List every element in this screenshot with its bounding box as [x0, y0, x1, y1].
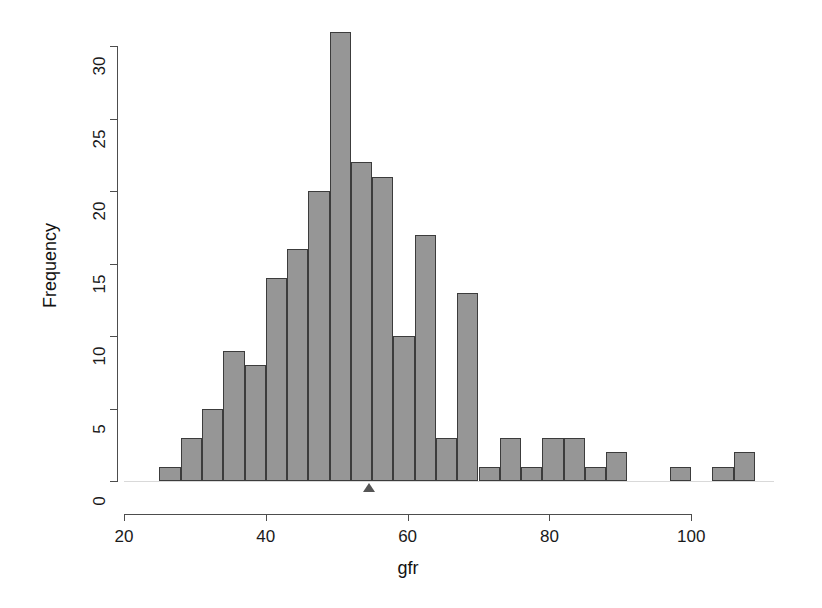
x-axis-label: gfr — [358, 558, 458, 579]
histogram-bar — [372, 177, 393, 482]
y-tick — [110, 409, 117, 410]
y-axis-line — [117, 46, 118, 482]
histogram-bar — [479, 467, 500, 482]
histogram-bar — [712, 467, 733, 482]
y-tick-label: 15 — [90, 264, 110, 304]
y-tick-label: 10 — [90, 336, 110, 376]
y-tick — [110, 191, 117, 192]
histogram-bar — [266, 278, 287, 481]
histogram-bar — [457, 293, 478, 482]
histogram-bar — [287, 249, 308, 481]
histogram-bar — [202, 409, 223, 482]
y-axis-label: Frequency — [40, 206, 61, 326]
histogram-bar — [500, 438, 521, 482]
y-tick-label: 30 — [90, 46, 110, 86]
x-tick-label: 40 — [236, 527, 296, 547]
histogram-bar — [351, 162, 372, 481]
histogram-bar — [734, 452, 755, 481]
y-tick-label: 0 — [90, 481, 110, 521]
plot-area: 051015202530 20406080100 Frequency gfr — [0, 0, 822, 608]
histogram-bar — [181, 438, 202, 482]
histogram-bar — [415, 235, 436, 482]
histogram-bar — [670, 467, 691, 482]
x-tick — [266, 514, 267, 521]
histogram-bar — [159, 467, 180, 482]
histogram-bar — [542, 438, 563, 482]
mean-marker-triangle — [363, 483, 375, 492]
y-tick-label: 20 — [90, 191, 110, 231]
y-tick — [110, 264, 117, 265]
histogram-bar — [245, 365, 266, 481]
histogram-bar — [393, 336, 414, 481]
y-tick — [110, 119, 117, 120]
y-tick-label: 5 — [90, 409, 110, 449]
histogram-bar — [308, 191, 329, 481]
y-tick — [110, 336, 117, 337]
x-tick-label: 20 — [94, 527, 154, 547]
x-tick — [408, 514, 409, 521]
x-tick-label: 60 — [378, 527, 438, 547]
x-tick-label: 100 — [661, 527, 721, 547]
histogram-bar — [330, 32, 351, 482]
histogram-figure: 051015202530 20406080100 Frequency gfr — [0, 0, 822, 608]
x-tick — [124, 514, 125, 521]
histogram-bar — [521, 467, 542, 482]
histogram-bar — [585, 467, 606, 482]
y-tick — [110, 46, 117, 47]
x-tick — [549, 514, 550, 521]
histogram-bar — [564, 438, 585, 482]
x-tick — [691, 514, 692, 521]
histogram-bar — [436, 438, 457, 482]
y-tick — [110, 481, 117, 482]
x-tick-label: 80 — [519, 527, 579, 547]
histogram-bar — [606, 452, 627, 481]
baseline — [124, 481, 774, 482]
y-tick-label: 25 — [90, 119, 110, 159]
histogram-bar — [223, 351, 244, 482]
